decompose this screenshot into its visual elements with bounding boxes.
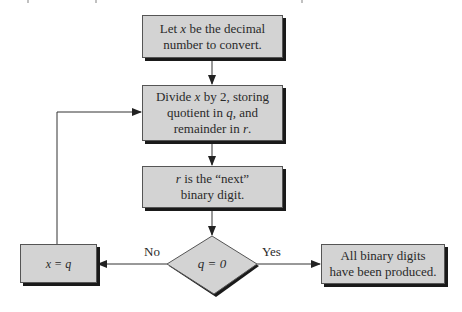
start-line-1: Let x be the decimal: [160, 21, 265, 37]
digit-line-1: r is the “next”: [176, 171, 249, 187]
start-box: Let x be the decimal number to convert.: [142, 15, 283, 58]
divide-line-3: remainder in r.: [156, 121, 269, 137]
done-line-2: have been produced.: [329, 264, 436, 280]
arrow-assign-to-divide-loop: [57, 112, 141, 244]
flowchart: Let x be the decimal number to convert. …: [0, 0, 462, 312]
assign-text: x = q: [46, 256, 71, 272]
start-line-2: number to convert.: [160, 37, 265, 53]
divide-line-1: Divide x by 2, storing: [156, 89, 269, 105]
assign-box: x = q: [20, 244, 97, 283]
edge-label-yes: Yes: [262, 244, 281, 260]
digit-box: r is the “next” binary digit.: [142, 166, 283, 208]
done-line-1: All binary digits: [329, 248, 436, 264]
divide-box: Divide x by 2, storing quotient in q, an…: [142, 85, 283, 141]
digit-line-2: binary digit.: [176, 187, 249, 203]
decision-label: q = 0: [182, 256, 242, 272]
cut-off-text-fragments: [27, 0, 303, 3]
done-box: All binary digits have been produced.: [321, 244, 445, 284]
edge-label-no: No: [144, 244, 160, 260]
divide-line-2: quotient in q, and: [156, 105, 269, 121]
